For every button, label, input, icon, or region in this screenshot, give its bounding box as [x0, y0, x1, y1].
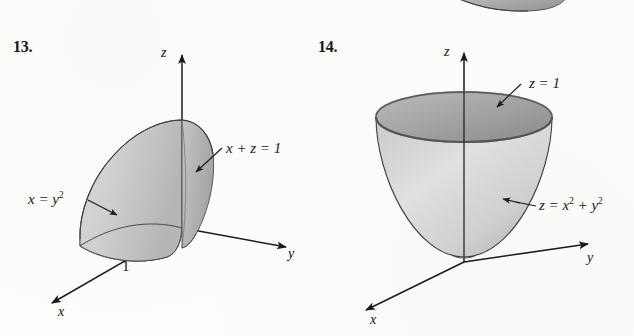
figure-13-x-intercept-label: 1 [122, 258, 130, 275]
figure-13-z-axis-label: z [161, 45, 166, 61]
figure-14-paraboloid-label-mid: + y [574, 197, 598, 213]
figure-13-cylinder-label: x = y2 [28, 192, 64, 207]
cropped-figure-sliver [436, 0, 572, 11]
figure-13-plane-label: x + z = 1 [226, 141, 281, 156]
figure-14-y-axis-label: y [587, 250, 593, 266]
figure-14-cap-plane-label-text: z = 1 [529, 75, 560, 91]
figure-13-number: 13. [13, 38, 32, 56]
figure-14-cap-plane-label: z = 1 [529, 76, 560, 91]
figure-14-paraboloid-label-lead: z = x [539, 197, 569, 213]
figure-13-graphic [52, 55, 286, 303]
figure-13-cylinder-label-text: x = y [28, 191, 59, 207]
figure-14-paraboloid-label: z = x2 + y2 [539, 198, 603, 213]
textbook-figure-page: 13. 14. z y x x + z = 1 x = y2 1 z y x z… [0, 0, 634, 336]
figures-canvas [0, 0, 634, 336]
figure-14-x-axis-label: x [370, 312, 376, 328]
figure-13-cylinder-label-exponent: 2 [59, 190, 64, 200]
figure-13-plane-label-text: x + z = 1 [226, 140, 281, 156]
figure-13-y-axis-label: y [288, 246, 294, 262]
figure-13-front-face [80, 120, 182, 261]
figure-14-x-axis [366, 262, 464, 310]
figure-14-graphic [366, 53, 588, 310]
figure-14-z-axis-label: z [444, 44, 449, 60]
figure-13-x-axis-label: x [58, 304, 64, 320]
figure-14-paraboloid-label-exp2: 2 [598, 196, 603, 206]
figure-14-number: 14. [318, 38, 337, 56]
